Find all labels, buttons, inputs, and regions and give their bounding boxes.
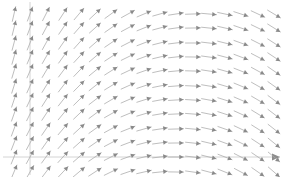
field-arrow-head [196,155,200,160]
field-arrow-head [63,37,67,42]
field-arrow-head [179,170,183,175]
field-arrow-head [196,141,200,146]
field-arrow-head [63,65,67,70]
field-arrow-head [163,54,168,58]
field-arrow-head [196,127,200,132]
field-arrow-head [96,66,101,70]
field-arrow-head [228,85,233,89]
field-arrow-head [196,112,200,117]
field-arrow-head [212,112,217,117]
field-arrow-head [259,172,264,176]
field-arrow-head [163,40,168,44]
field-arrow-head [275,143,280,147]
field-arrow-head [179,83,183,88]
field-arrow-head [212,84,217,89]
field-arrow-head [179,127,183,132]
field-arrow-head [163,140,167,145]
field-arrow-head [275,114,280,118]
field-arrow-head [179,54,183,59]
x-axis-arrowhead [272,154,280,161]
field-arrow-head [179,155,183,160]
field-arrow-head [147,140,152,144]
field-arrow-head [275,86,280,90]
field-arrow-head [113,53,118,57]
field-arrow-head [212,127,217,132]
field-arrow-head [13,79,17,84]
field-arrow-head [163,11,168,15]
field-arrow-head [163,126,168,131]
field-arrow-head [212,12,216,17]
field-arrow-head [63,51,67,56]
field-arrow-head [275,129,280,133]
field-arrow-head [212,55,216,60]
field-arrow-head [46,108,50,113]
field-arrow-head [63,8,67,13]
field-arrow-head [13,21,17,26]
field-arrow-head [13,7,17,12]
field-arrow-head [196,170,200,175]
field-arrow-head [179,112,183,117]
field-arrow-head [228,12,233,17]
field-arrow-head [163,83,168,88]
field-arrow-head [146,97,151,101]
field-arrow-head [196,26,200,31]
field-arrow-head [275,100,280,104]
field-arrow-head [112,10,117,14]
field-arrow-head [212,156,217,160]
field-arrow-head [13,36,17,41]
field-arrow-head [46,94,50,99]
field-arrow-head [63,108,67,113]
arrow-group [11,7,280,177]
field-arrow-head [46,137,50,142]
field-arrow-head [63,94,67,99]
field-arrow-head [228,56,233,60]
field-arrow-head [196,41,200,46]
field-arrow-head [113,67,118,71]
field-arrow-head [196,69,200,74]
field-arrow-head [13,50,17,55]
field-arrow-head [179,68,183,73]
field-arrow-head [228,70,233,74]
field-arrow-head [179,98,183,103]
field-arrow-head [63,22,67,27]
field-arrow-head [179,40,183,45]
field-arrow-head [196,98,200,103]
field-arrow-head [96,110,101,114]
field-arrow-head [275,71,280,75]
field-arrow-head [212,98,217,103]
field-arrow-head [212,142,217,146]
field-arrow-head [147,111,152,115]
field-arrow-head [163,25,168,29]
field-arrow-head [163,68,168,72]
field-arrow-head [96,81,101,85]
field-arrow-head [259,157,264,161]
field-arrow-head [212,69,216,74]
field-arrow-head [212,41,216,46]
field-arrow-head [112,24,117,28]
field-arrow-head [96,95,101,99]
field-arrow-head [196,84,200,89]
field-arrow-head [147,169,152,173]
field-arrow-head [112,39,117,43]
field-arrow-head [179,11,184,16]
field-arrow-head [196,12,200,17]
field-arrow-head [163,169,167,174]
field-arrow-head [275,57,280,61]
field-arrow-head [13,64,17,69]
field-arrow-head [196,55,200,60]
field-arrow-head [179,141,183,146]
field-arrow-head [228,27,233,31]
field-arrow-head [46,151,50,156]
field-arrow-head [46,166,50,171]
field-arrow-head [212,26,216,31]
field-arrow-head [163,111,168,116]
field-arrow-head [147,154,152,158]
field-arrow-head [179,25,183,30]
vector-field-canvas [0,0,292,177]
field-arrow-head [276,43,281,47]
field-arrow-head [212,171,217,175]
field-arrow-head [260,143,265,147]
field-arrow-head [63,80,67,85]
field-arrow-head [147,126,152,130]
field-arrow-head [46,123,50,128]
